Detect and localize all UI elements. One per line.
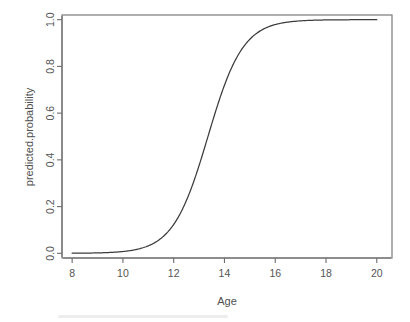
x-tick-label: 14 <box>219 267 231 279</box>
y-axis-label: predicted.probability <box>23 87 35 186</box>
x-tick-label: 8 <box>69 267 75 279</box>
y-tick-label: 1.0 <box>44 12 56 27</box>
y-tick-label: 0.6 <box>44 106 56 121</box>
logistic-curve-plot: 0.00.20.40.60.81.0 predicted.probability… <box>0 0 410 322</box>
x-tick-label: 12 <box>168 267 180 279</box>
x-tick-label: 10 <box>117 267 129 279</box>
y-tick-label: 0.4 <box>44 152 56 167</box>
y-tick-label: 0.0 <box>44 246 56 261</box>
y-tick-label: 0.8 <box>44 59 56 74</box>
scan-artifact <box>58 315 228 318</box>
y-tick-label: 0.2 <box>44 199 56 214</box>
x-tick-label: 16 <box>269 267 281 279</box>
x-tick-label: 18 <box>320 267 332 279</box>
x-tick-label: 20 <box>371 267 383 279</box>
chart-figure: 0.00.20.40.60.81.0 predicted.probability… <box>0 0 410 322</box>
x-axis-label: Age <box>217 295 237 307</box>
